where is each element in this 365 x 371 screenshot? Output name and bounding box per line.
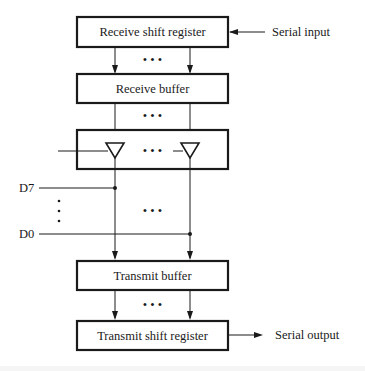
arrow-down-icon — [112, 65, 118, 74]
serial-input-label: Serial input — [272, 25, 331, 39]
data-bus: D7 • • • D0 — [19, 158, 193, 260]
ellipsis: • • • — [143, 53, 162, 67]
transmit-shift-register-block: Transmit shift register — [77, 321, 228, 350]
arrow-down-icon — [112, 251, 118, 260]
receive-shift-register-label: Receive shift register — [99, 25, 206, 39]
junction-dot — [188, 232, 192, 236]
page-edge — [0, 366, 365, 371]
d7-label: D7 — [19, 181, 34, 195]
arrow-down-icon — [187, 251, 193, 260]
vertical-ellipsis — [58, 200, 61, 203]
ellipsis: • • • — [143, 144, 162, 158]
serial-input-connection: Serial input — [229, 25, 331, 39]
uart-block-diagram: Receive shift register Serial input • • … — [0, 0, 365, 371]
arrow-left-icon — [229, 29, 238, 35]
receive-shift-register-block: Receive shift register — [77, 17, 228, 47]
arrow-right-icon — [254, 332, 263, 338]
tbuf-to-tsr-wires: • • • — [112, 290, 193, 320]
d0-label: D0 — [19, 227, 34, 241]
arrow-down-icon — [112, 311, 118, 320]
vertical-ellipsis — [58, 210, 61, 213]
tristate-buffer-block: • • • — [58, 130, 228, 169]
arrow-down-icon — [187, 311, 193, 320]
transmit-buffer-label: Transmit buffer — [113, 269, 192, 283]
ellipsis: • • • — [143, 298, 162, 312]
transmit-buffer-block: Transmit buffer — [77, 261, 228, 290]
transmit-shift-register-label: Transmit shift register — [97, 329, 208, 343]
arrow-down-icon — [187, 65, 193, 74]
rsr-to-rbuf-wires: • • • — [112, 47, 193, 74]
junction-dot — [113, 186, 117, 190]
serial-output-label: Serial output — [275, 328, 340, 342]
receive-buffer-block: Receive buffer — [77, 74, 228, 103]
vertical-ellipsis — [58, 220, 61, 223]
ellipsis: • • • — [143, 109, 162, 123]
ellipsis: • • • — [143, 204, 162, 218]
serial-output-connection: Serial output — [228, 328, 340, 342]
receive-buffer-label: Receive buffer — [116, 82, 191, 96]
